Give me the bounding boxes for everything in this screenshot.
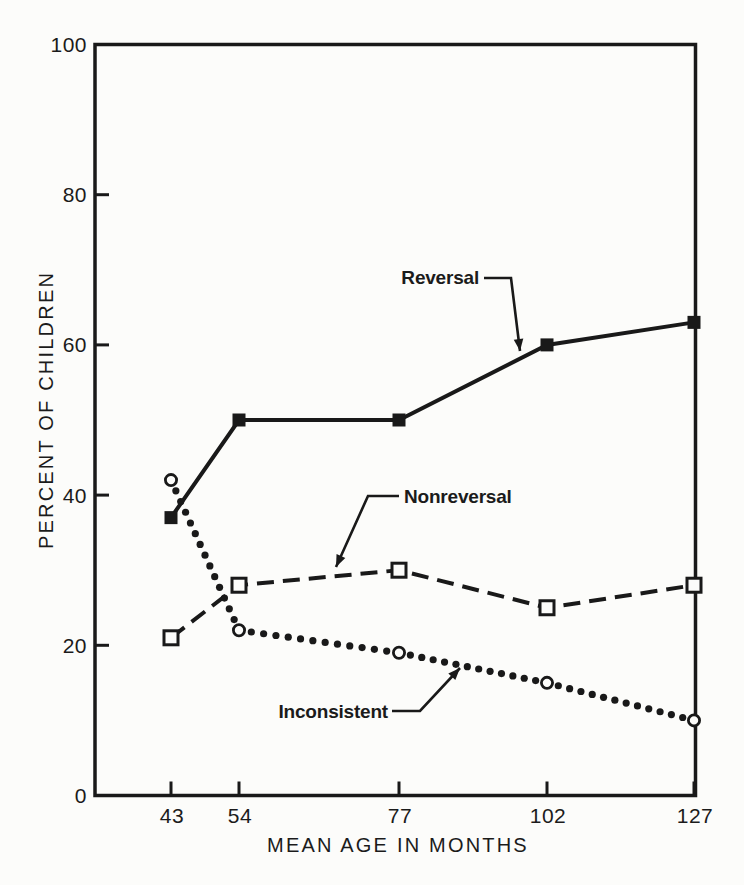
open-circle-marker	[541, 677, 552, 688]
dotted-line-dot	[272, 632, 279, 639]
filled-square-marker	[541, 338, 554, 351]
x-tick-label: 54	[228, 804, 252, 827]
dotted-line-dot	[498, 670, 505, 677]
open-square-marker	[164, 631, 178, 645]
dotted-line-dot	[260, 630, 267, 637]
dotted-line-dot	[285, 634, 292, 641]
dotted-line-dot	[577, 688, 584, 695]
dotted-line-dot	[611, 697, 618, 704]
x-tick-label: 43	[160, 804, 184, 827]
filled-square-marker	[165, 511, 178, 524]
dotted-line-dot	[418, 654, 425, 661]
dotted-line-dot	[668, 711, 675, 718]
open-circle-marker	[233, 625, 244, 636]
y-axis-title: PERCENT OF CHILDREN	[35, 271, 57, 549]
filled-square-marker	[233, 414, 246, 427]
dotted-line-dot	[645, 705, 652, 712]
open-square-marker	[540, 601, 554, 615]
dotted-line-dot	[430, 656, 437, 663]
dotted-line-dot	[206, 562, 213, 569]
dotted-line-dot	[407, 652, 414, 659]
dotted-line-dot	[509, 672, 516, 679]
series-annotation-label: Nonreversal	[404, 486, 512, 507]
x-tick-label: 77	[388, 804, 412, 827]
open-square-marker	[687, 578, 701, 592]
dotted-line-dot	[441, 658, 448, 665]
dotted-line-dot	[248, 628, 255, 635]
dotted-line-dot	[634, 702, 641, 709]
series-annotation-label: Reversal	[401, 267, 479, 288]
dotted-line-dot	[521, 675, 528, 682]
nonreversal-series-line	[171, 570, 694, 638]
y-tick-label: 80	[63, 183, 87, 206]
x-tick-label: 127	[677, 804, 714, 827]
dotted-line-dot	[177, 498, 184, 505]
dotted-line-dot	[452, 661, 459, 668]
dotted-line-dot	[566, 685, 573, 692]
dotted-line-dot	[201, 552, 208, 559]
open-square-marker	[232, 578, 246, 592]
dotted-line-dot	[589, 691, 596, 698]
y-tick-label: 40	[63, 484, 87, 507]
dotted-line-dot	[464, 663, 471, 670]
dotted-line-dot	[358, 644, 365, 651]
open-circle-marker	[688, 715, 699, 726]
annotation-arrowhead	[336, 554, 345, 567]
x-tick-label: 102	[530, 804, 567, 827]
dotted-line-dot	[334, 641, 341, 648]
open-circle-marker	[165, 474, 176, 485]
annotation-pointer-line	[336, 496, 399, 567]
plot-area: 020406080100435477102127ReversalNonrever…	[50, 33, 713, 827]
dotted-line-dot	[346, 642, 353, 649]
open-square-marker	[392, 563, 406, 577]
dotted-line-dot	[475, 665, 482, 672]
dotted-line-dot	[297, 635, 304, 642]
dotted-line-dot	[486, 668, 493, 675]
dotted-line-dot	[322, 639, 329, 646]
dotted-line-dot	[371, 646, 378, 653]
scanned-page: 020406080100435477102127ReversalNonrever…	[0, 0, 744, 885]
dotted-line-dot	[197, 541, 204, 548]
x-axis-title: MEAN AGE IN MONTHS	[267, 834, 529, 856]
dotted-line-dot	[679, 714, 686, 721]
dotted-line-dot	[600, 694, 607, 701]
y-tick-label: 20	[63, 634, 87, 657]
dotted-line-dot	[555, 682, 562, 689]
dotted-line-dot	[656, 708, 663, 715]
dotted-line-dot	[187, 519, 194, 526]
dotted-line-dot	[226, 605, 233, 612]
y-tick-label: 0	[75, 784, 87, 807]
dotted-line-dot	[221, 594, 228, 601]
y-tick-label: 60	[63, 333, 87, 356]
dotted-line-dot	[211, 573, 218, 580]
dotted-line-dot	[231, 616, 238, 623]
figure-chart: 020406080100435477102127ReversalNonrever…	[0, 0, 744, 885]
dotted-line-dot	[172, 487, 179, 494]
dotted-line-dot	[182, 509, 189, 516]
dotted-line-dot	[383, 647, 390, 654]
dotted-line-dot	[216, 584, 223, 591]
filled-square-marker	[393, 414, 406, 427]
series-annotation-label: Inconsistent	[278, 701, 388, 722]
dotted-line-dot	[623, 699, 630, 706]
dotted-line-dot	[532, 677, 539, 684]
dotted-line-dot	[192, 530, 199, 537]
open-circle-marker	[393, 647, 404, 658]
dotted-line-dot	[309, 637, 316, 644]
y-tick-label: 100	[50, 33, 87, 56]
filled-square-marker	[688, 316, 701, 329]
